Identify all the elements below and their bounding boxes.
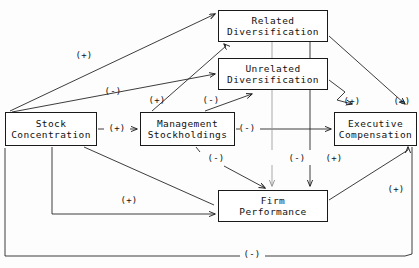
node-label-line2: Diversification bbox=[227, 74, 319, 86]
sign-unrelated-to-exec: (+) bbox=[394, 96, 411, 106]
node-label-line2: Compensation bbox=[339, 129, 412, 141]
node-stock-concentration[interactable]: Stock Concentration bbox=[5, 112, 97, 146]
node-label-line1: Related bbox=[252, 15, 295, 27]
sign-feedback-loop: (-) bbox=[244, 249, 261, 259]
node-executive-compensation[interactable]: Executive Compensation bbox=[334, 112, 417, 146]
sign-stock-to-related: (+) bbox=[76, 50, 93, 60]
sign-related-to-firm: (+) bbox=[326, 153, 343, 163]
node-label-line1: Stock bbox=[36, 118, 67, 130]
edge-management-to-firm bbox=[224, 166, 265, 188]
node-label-line2: Diversification bbox=[227, 26, 319, 38]
node-label-line1: Management bbox=[157, 118, 218, 130]
node-label-line1: Unrelated bbox=[245, 63, 300, 75]
sign-management-to-firm: (-) bbox=[208, 153, 225, 163]
node-unrelated-diversification[interactable]: Unrelated Diversification bbox=[218, 58, 328, 90]
edge-stock-diag-firm bbox=[84, 147, 214, 205]
edge-feedback-right bbox=[265, 254, 412, 256]
node-label-line1: Firm bbox=[261, 195, 285, 207]
sign-firm-to-exec: (+) bbox=[388, 184, 405, 194]
sign-management-to-related: (+) bbox=[149, 95, 166, 105]
sign-stock-to-unrelated: (-) bbox=[105, 86, 122, 96]
node-label-line2: Stockholdings bbox=[148, 129, 228, 141]
sign-management-to-exec: (-) bbox=[239, 123, 256, 133]
edge-stock-to-related bbox=[10, 14, 215, 111]
node-label-line2: Performance bbox=[239, 206, 306, 218]
causal-path-diagram: Stock Concentration Management Stockhold… bbox=[0, 0, 419, 268]
node-label-line2: Concentration bbox=[11, 129, 91, 141]
node-firm-performance[interactable]: Firm Performance bbox=[218, 190, 328, 222]
sign-stock-to-management: (+) bbox=[109, 123, 126, 133]
node-label-line1: Executive bbox=[348, 118, 403, 130]
sign-related-to-exec: (+) bbox=[344, 96, 361, 106]
edge-management-down-stub bbox=[196, 147, 200, 152]
sign-diversification-to-firm: (-) bbox=[289, 153, 306, 163]
node-related-diversification[interactable]: Related Diversification bbox=[218, 10, 328, 42]
node-management-stockholdings[interactable]: Management Stockholdings bbox=[140, 112, 235, 146]
sign-management-to-unrelated: (-) bbox=[203, 95, 220, 105]
sign-stock-to-firm: (+) bbox=[121, 195, 138, 205]
edge-related-to-exec bbox=[329, 36, 405, 104]
